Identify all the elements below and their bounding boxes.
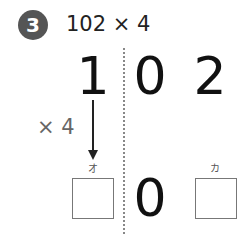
down-arrow-icon (92, 100, 94, 152)
digit-ones: 2 (185, 48, 235, 104)
answer-box-ones[interactable] (195, 178, 237, 219)
answer-digit-tens: 0 (125, 170, 175, 226)
problem-number-badge: 3 (18, 10, 48, 40)
multiplier-label: × 4 (37, 113, 75, 141)
answer-label-o: オ (78, 163, 108, 175)
arrowhead-icon (88, 150, 98, 160)
answer-label-ka: カ (200, 163, 230, 175)
problem-expression: 102 × 4 (66, 9, 150, 39)
digit-hundreds: 1 (68, 48, 118, 104)
answer-box-hundreds[interactable] (72, 178, 114, 219)
digit-tens: 0 (125, 48, 175, 104)
